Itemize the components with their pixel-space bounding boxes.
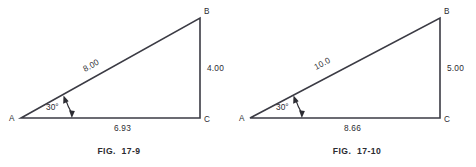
- angle-arrow-base: [69, 110, 75, 118]
- angle-label-a: 30°: [46, 102, 59, 112]
- figure-fig-17-10: A B C 30° 10.0 5.00 8.66 FIG. 17-10: [238, 0, 476, 167]
- angle-arrow-hypotenuse: [293, 96, 299, 104]
- vertex-label-c: C: [444, 115, 450, 124]
- vertex-label-b: B: [204, 7, 210, 16]
- angle-arrow-base: [299, 110, 305, 118]
- side-label-vertical: 5.00: [447, 63, 464, 73]
- figure-fig-17-9: A B C 30° 8.00 4.00 6.93 FIG. 17-9: [0, 0, 238, 167]
- figure-pair-canvas: A B C 30° 8.00 4.00 6.93 FIG. 17-9 A B C: [0, 0, 476, 167]
- vertex-label-c: C: [204, 115, 210, 124]
- angle-label-a: 30°: [276, 102, 289, 112]
- side-label-vertical: 4.00: [207, 63, 224, 73]
- vertex-label-a: A: [239, 114, 245, 123]
- figure-caption: FIG. 17-9: [0, 146, 238, 156]
- angle-arrow-hypotenuse: [63, 96, 68, 104]
- vertex-label-a: A: [9, 114, 15, 123]
- figure-caption: FIG. 17-10: [238, 146, 476, 156]
- triangle-diagram-left: A B C 30° 8.00 4.00 6.93: [0, 0, 238, 167]
- side-label-base: 6.93: [114, 123, 131, 133]
- vertex-label-b: B: [444, 7, 450, 16]
- side-label-hypotenuse: 10.0: [312, 55, 332, 72]
- triangle-diagram-right: A B C 30° 10.0 5.00 8.66: [238, 0, 476, 167]
- side-label-hypotenuse: 8.00: [81, 57, 101, 74]
- side-label-base: 8.66: [344, 123, 361, 133]
